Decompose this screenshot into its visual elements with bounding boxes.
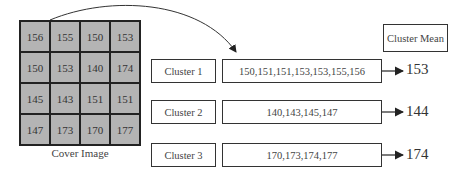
pixel-cell: 155 xyxy=(50,21,80,52)
pixel-cell: 173 xyxy=(50,114,80,145)
grid-caption: Cover Image xyxy=(19,147,141,159)
pixel-cell: 153 xyxy=(110,21,140,52)
pixel-cell: 150 xyxy=(80,21,110,52)
pixel-cell: 174 xyxy=(110,52,140,83)
pixel-cell: 147 xyxy=(20,114,50,145)
pixel-cell: 150 xyxy=(20,52,50,83)
pixel-cell: 151 xyxy=(80,83,110,114)
pixel-cell: 143 xyxy=(50,83,80,114)
pixel-cell: 170 xyxy=(80,114,110,145)
pixel-cell: 151 xyxy=(110,83,140,114)
cluster-2-values: 140,143,145,147 xyxy=(222,100,382,124)
pixel-cell: 145 xyxy=(20,83,50,114)
cluster-2-mean: 144 xyxy=(406,103,429,120)
cluster-2-label: Cluster 2 xyxy=(151,100,216,124)
cluster-mean-header: Cluster Mean xyxy=(383,24,448,52)
cluster-3-values: 170,173,174,177 xyxy=(222,143,382,167)
cluster-1-label: Cluster 1 xyxy=(151,59,216,83)
pixel-cell: 140 xyxy=(80,52,110,83)
cluster-3-label: Cluster 3 xyxy=(151,143,216,167)
cluster-3-mean: 174 xyxy=(406,146,429,163)
cluster-1-mean: 153 xyxy=(406,61,429,78)
pixel-cell: 153 xyxy=(50,52,80,83)
pixel-cell: 177 xyxy=(110,114,140,145)
cluster-1-values: 150,151,151,153,153,155,156 xyxy=(222,59,382,83)
cover-image-grid: 156 155 150 153 150 153 140 174 145 143 … xyxy=(19,20,141,146)
pixel-cell: 156 xyxy=(20,21,50,52)
